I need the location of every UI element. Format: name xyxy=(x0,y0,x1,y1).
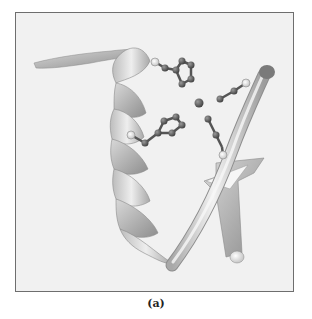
side-chain-middle-right xyxy=(205,116,228,160)
figure-caption: (a) xyxy=(0,297,312,310)
side-chain-upper-ring xyxy=(151,58,195,88)
side-chain-upper-right xyxy=(217,79,251,103)
metal-ion xyxy=(195,99,204,108)
protein-ribbon-diagram xyxy=(16,13,295,293)
figure-panel xyxy=(15,12,294,292)
alpha-helix xyxy=(110,48,172,263)
